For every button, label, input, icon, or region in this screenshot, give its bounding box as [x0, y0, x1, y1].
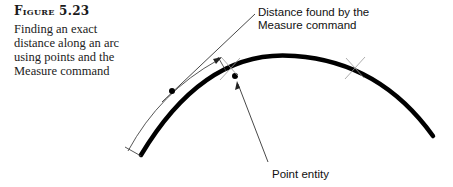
distance-arrow-icon: [213, 57, 222, 64]
distance-arc-start-tick: [125, 147, 141, 156]
arc-diagram: [0, 0, 453, 187]
point-dot-entity: [232, 73, 238, 79]
point-leader-line: [238, 84, 268, 162]
main-arc: [141, 55, 433, 155]
point-dot-start: [169, 88, 175, 94]
distance-leader-line: [162, 14, 255, 102]
distance-arc: [128, 60, 218, 151]
point-arrow-icon: [235, 81, 240, 90]
